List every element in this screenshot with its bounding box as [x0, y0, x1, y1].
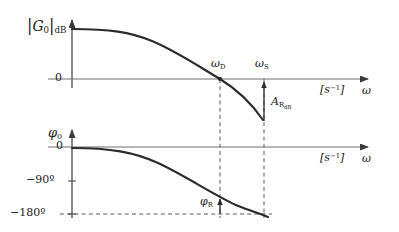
phase-tick-minus-90-label: −90º: [26, 174, 54, 185]
magnitude-curve: [72, 29, 263, 120]
bode-plot-figure: ||GG0|dB 0 ωD ωS ARdB [s−1] ω φ0 0 −90º …: [0, 0, 399, 232]
phase-tick-0-label: 0: [56, 140, 63, 151]
gain-margin-label: ARdB: [271, 96, 292, 110]
magnitude-x-axis-label: ω: [362, 85, 371, 96]
phase-x-axis-unit: [s−1]: [320, 152, 344, 163]
phase-curve: [72, 148, 268, 217]
magnitude-x-axis-unit: [s−1]: [320, 84, 344, 95]
omega-d-label: ωD: [211, 58, 225, 71]
phase-margin-label: φR: [200, 196, 213, 209]
magnitude-zero-tick: 0: [55, 72, 62, 83]
omega-s-label: ωS: [255, 58, 269, 71]
magnitude-y-axis-label: ||GG0|dB: [27, 18, 66, 35]
phase-x-axis-label: ω: [362, 153, 371, 164]
phase-tick-minus-180-label: −180º: [10, 207, 45, 218]
